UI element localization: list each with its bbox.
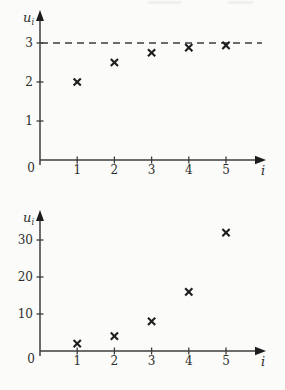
x-tick-label: 1 [73,354,81,368]
x-tick-label: 3 [148,354,156,368]
x-tick-label: 3 [148,163,156,177]
x-axis-label: i [261,354,265,369]
y-axis-label: ui [23,10,34,27]
y-tick-label: 1 [25,114,33,128]
y-tick-label: 10 [18,307,33,321]
y-tick-label: 2 [25,75,33,89]
y-axis-label: ui [23,210,34,227]
origin-label: 0 [27,161,35,175]
x-axis-label: i [261,163,265,178]
y-tick-label: 30 [18,233,33,247]
x-tick-label: 5 [222,163,230,177]
x-tick-label: 2 [111,163,119,177]
x-tick-label: 2 [111,354,119,368]
scanned-page: 123123450uii 102030123450uii [0,0,285,390]
y-axis-arrow-icon [36,10,44,21]
origin-label: 0 [27,352,35,366]
x-tick-label: 4 [185,354,193,368]
x-tick-label: 5 [222,354,230,368]
chart-bottom-geometric-sequence: 102030123450uii [0,195,285,390]
chart-top-converging-sequence: 123123450uii [0,0,285,195]
x-tick-label: 1 [73,163,81,177]
y-axis-arrow-icon [36,210,44,221]
y-tick-label: 20 [18,270,33,284]
x-tick-label: 4 [185,163,193,177]
y-tick-label: 3 [25,36,33,50]
